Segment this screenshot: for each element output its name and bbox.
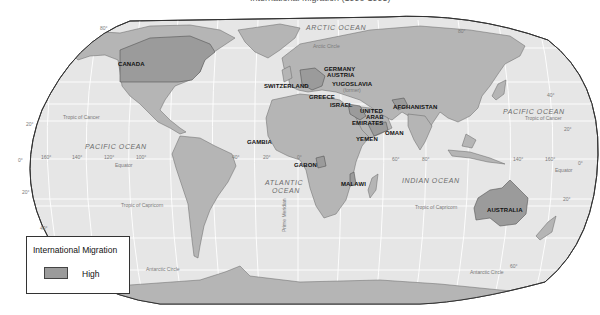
label-antarctic-circle-west: Antarctic Circle [146, 267, 180, 272]
label-greece: GREECE [309, 94, 335, 100]
label-tropic-capricorn-east: Tropic of Capricorn [415, 205, 457, 210]
legend-label-high: High [82, 269, 99, 279]
label-afghanistan: AFGHANISTAN [393, 104, 437, 110]
legend-swatch-high [44, 267, 68, 279]
label-prime-meridian: Prime Meridian [282, 198, 287, 232]
label-yemen: YEMEN [356, 136, 378, 142]
label-pacific-ocean-west: PACIFIC OCEAN [85, 143, 147, 150]
label-equator-west: Equator [115, 163, 133, 168]
label-oman: OMAN [385, 130, 404, 136]
label-tropic-capricorn-west: Tropic of Capricorn [121, 203, 163, 208]
deg-0-east: 0° [578, 161, 583, 166]
label-gambia: GAMBIA [247, 139, 272, 145]
deg-40n-east: 40° [547, 93, 555, 98]
label-austria: AUSTRIA [327, 72, 354, 78]
label-atlantic: ATLANTIC [265, 179, 303, 186]
label-gabon: GABON [294, 162, 317, 168]
legend: International Migration High [26, 236, 130, 294]
label-malawi: MALAWI [341, 181, 366, 187]
label-indian-ocean: INDIAN OCEAN [402, 177, 460, 184]
label-pacific-ocean-east: PACIFIC OCEAN [503, 108, 565, 115]
deg-40s-west: 40° [40, 226, 48, 231]
label-switzerland: SWITZERLAND [264, 83, 309, 89]
label-tropic-cancer-west: Tropic of Cancer [63, 115, 100, 120]
deg-20n-east: 20° [564, 127, 572, 132]
label-emirates: EMIRATES [352, 120, 383, 126]
deg-60s-east: 60° [510, 264, 518, 269]
label-yugoslavia-former: (former) [343, 88, 361, 93]
label-australia: AUSTRALIA [487, 207, 523, 213]
deg-80n-west: 80° [100, 26, 108, 31]
label-atlantic-ocean: OCEAN [272, 187, 300, 194]
deg-140w: 140° [72, 155, 82, 160]
deg-160w: 160° [41, 155, 51, 160]
world-map: International Migration (1990-1995) CANA… [0, 0, 600, 315]
deg-100w: 100° [136, 155, 146, 160]
deg-140e: 140° [513, 157, 523, 162]
deg-120w: 120° [104, 155, 114, 160]
map-title: International Migration (1990-1995) [250, 0, 391, 3]
label-arctic-circle: Arctic Circle [313, 44, 340, 49]
deg-80n-east: 80° [458, 29, 466, 34]
gabon-shape [316, 156, 326, 168]
deg-40w: 40° [232, 155, 240, 160]
legend-title: International Migration [33, 245, 117, 255]
label-antarctic-circle-east: Antarctic Circle [470, 270, 504, 275]
label-canada: CANADA [118, 61, 145, 67]
deg-20s-east: 20° [563, 197, 571, 202]
label-tropic-cancer-east: Tropic of Cancer [525, 116, 562, 121]
label-equator-east: Equator [555, 168, 573, 173]
label-israel: ISRAEL [330, 102, 353, 108]
deg-0-lon: 0° [297, 155, 302, 160]
deg-20n-west: 20° [26, 122, 34, 127]
label-arctic-ocean: ARCTIC OCEAN [306, 24, 366, 31]
deg-160e: 160° [545, 157, 555, 162]
deg-20s-west: 20° [22, 190, 30, 195]
deg-0-west: 0° [18, 158, 23, 163]
deg-20w: 20° [263, 155, 271, 160]
deg-60e: 60° [392, 157, 400, 162]
deg-80e: 80° [422, 157, 430, 162]
